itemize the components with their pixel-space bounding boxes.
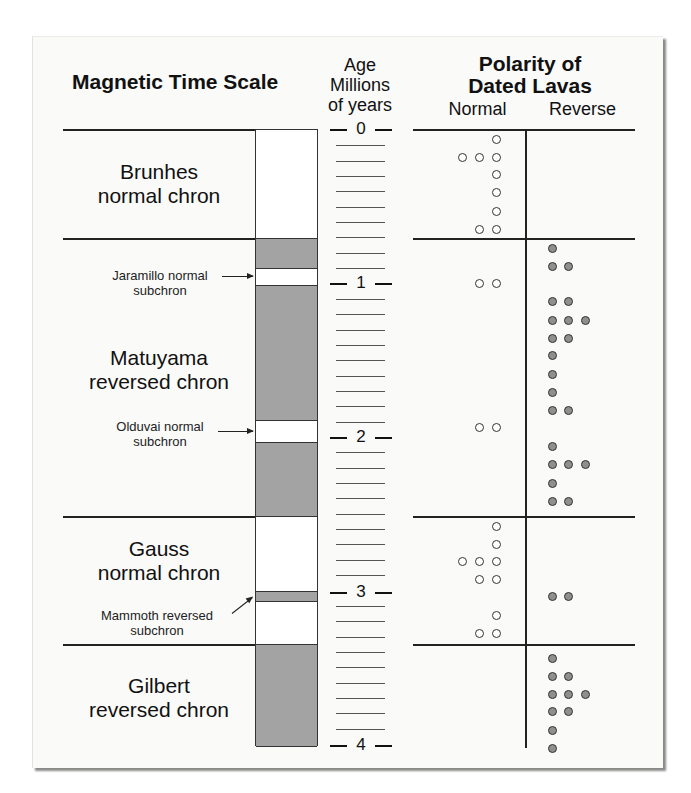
reverse-lava-dot	[564, 316, 573, 325]
chron-label-gauss: Gauss normal chron	[63, 537, 255, 585]
reverse-lava-dot	[548, 351, 557, 360]
minor-tick	[336, 299, 385, 300]
minor-tick	[336, 637, 385, 638]
reverse-lava-dot	[548, 370, 557, 379]
minor-tick	[336, 145, 385, 146]
normal-lava-dot	[475, 575, 484, 584]
segment-mammoth-reversed	[256, 591, 317, 602]
polarity-header: Polarity of Dated Lavas	[430, 53, 630, 97]
chron-label-brunhes: Brunhes normal chron	[63, 160, 255, 208]
reverse-lava-dot	[548, 592, 557, 601]
age-label-2: 2	[330, 429, 392, 447]
age-header-line3: of years	[320, 95, 400, 115]
minor-tick	[336, 468, 385, 469]
boundary-line-matuyama-gauss-right	[413, 516, 635, 518]
minor-tick	[336, 698, 385, 699]
chron-type: reversed chron	[63, 698, 255, 722]
subchron-type: subchron	[82, 623, 232, 638]
segment-matuyama-reversed-a	[256, 238, 317, 269]
minor-tick	[336, 713, 385, 714]
normal-lava-dot	[492, 611, 501, 620]
normal-lava-dot	[492, 522, 501, 531]
age-header: Age Millions of years	[320, 55, 400, 115]
normal-lava-dot	[475, 153, 484, 162]
normal-lava-dot	[475, 225, 484, 234]
minor-tick	[336, 514, 385, 515]
subchron-label-olduvai: Olduvai normal subchron	[95, 419, 225, 449]
subchron-label-mammoth: Mammoth reversed subchron	[82, 608, 232, 638]
segment-gauss-normal-b	[256, 602, 317, 645]
minor-tick	[336, 729, 385, 730]
normal-lava-dot	[492, 279, 501, 288]
reverse-lava-dot	[548, 244, 557, 253]
normal-lava-dot	[492, 423, 501, 432]
chron-type: reversed chron	[63, 370, 255, 394]
segment-matuyama-reversed-b	[256, 285, 317, 421]
normal-lava-dot	[458, 557, 467, 566]
age-header-line2: Millions	[320, 75, 400, 95]
polarity-bar	[255, 129, 318, 746]
reverse-lava-dot	[548, 744, 557, 753]
minor-tick	[336, 422, 385, 423]
normal-lava-dot	[492, 188, 501, 197]
minor-tick	[336, 452, 385, 453]
reverse-lava-dot	[581, 690, 590, 699]
age-label-0: 0	[330, 121, 392, 139]
segment-gilbert-reversed	[256, 644, 317, 747]
boundary-line-brunhes-matuyama-right	[413, 238, 635, 240]
reverse-lava-dot	[548, 262, 557, 271]
minor-tick	[336, 621, 385, 622]
polarity-header-line2: Dated Lavas	[430, 75, 630, 97]
age-label-3: 3	[330, 584, 392, 602]
normal-lava-dot	[475, 423, 484, 432]
normal-lava-dot	[475, 557, 484, 566]
segment-olduvai-normal	[256, 421, 317, 443]
chron-label-matuyama: Matuyama reversed chron	[63, 346, 255, 394]
chron-label-gilbert: Gilbert reversed chron	[63, 674, 255, 722]
minor-tick	[336, 606, 385, 607]
minor-tick	[336, 330, 385, 331]
minor-tick	[336, 176, 385, 177]
normal-lava-dot	[458, 153, 467, 162]
minor-tick	[336, 498, 385, 499]
normal-lava-dot	[492, 629, 501, 638]
reverse-lava-dot	[548, 388, 557, 397]
minor-tick	[336, 268, 385, 269]
minor-tick	[336, 667, 385, 668]
normal-lava-dot	[492, 207, 501, 216]
normal-lava-dot	[492, 557, 501, 566]
reverse-lava-dot	[548, 316, 557, 325]
minor-tick	[336, 222, 385, 223]
reverse-lava-dot	[548, 497, 557, 506]
boundary-line-matuyama-gauss-left	[63, 516, 255, 518]
reverse-lava-dot	[548, 479, 557, 488]
normal-lava-dot	[475, 629, 484, 638]
minor-tick	[336, 544, 385, 545]
arrow-icon	[222, 276, 253, 277]
reverse-lava-dot	[548, 654, 557, 663]
age-label-1: 1	[330, 275, 392, 293]
reverse-lava-dot	[548, 707, 557, 716]
minor-tick	[336, 652, 385, 653]
boundary-line-gauss-gilbert-right	[413, 644, 635, 646]
polarity-header-line1: Polarity of	[430, 53, 630, 75]
minor-tick	[336, 345, 385, 346]
minor-tick	[336, 529, 385, 530]
reverse-column-header: Reverse	[530, 99, 635, 119]
minor-tick	[336, 560, 385, 561]
reverse-lava-dot	[548, 406, 557, 415]
reverse-lava-dot	[581, 316, 590, 325]
reverse-lava-dot	[564, 672, 573, 681]
magnetic-time-scale-title: Magnetic Time Scale	[72, 70, 278, 94]
boundary-line-brunhes-matuyama-left	[63, 238, 255, 240]
minor-tick	[336, 161, 385, 162]
age-label-4: 4	[330, 737, 392, 755]
polarity-divider	[525, 129, 527, 748]
reverse-lava-dot	[548, 460, 557, 469]
segment-jaramillo-normal	[256, 269, 317, 286]
normal-lava-dot	[492, 225, 501, 234]
minor-tick	[336, 483, 385, 484]
minor-tick	[336, 683, 385, 684]
minor-tick	[336, 237, 385, 238]
normal-lava-dot	[492, 540, 501, 549]
